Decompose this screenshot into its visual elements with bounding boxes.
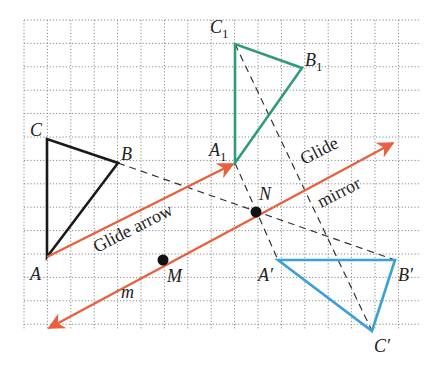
label-A: A <box>29 264 42 284</box>
label-Bprime: B′ <box>398 265 414 285</box>
label-Cprime: C′ <box>374 336 391 356</box>
point-N <box>251 207 262 218</box>
label-mirror: mirror <box>314 173 364 212</box>
label-glide: Glide <box>297 133 342 169</box>
label-m: m <box>121 282 134 302</box>
dotted-grid <box>24 20 421 330</box>
label-M: M <box>166 266 183 286</box>
label-B1: B1 <box>305 50 323 74</box>
label-C: C <box>30 120 43 140</box>
label-C1: C1 <box>210 17 229 41</box>
point-M <box>158 255 169 266</box>
triangle-A1B1C1 <box>235 44 302 163</box>
label-B: B <box>121 144 132 164</box>
label-N: N <box>258 184 272 204</box>
triangle-AprimeBprimeCprime <box>278 260 395 331</box>
label-Aprime: A′ <box>257 265 274 285</box>
glide-reflection-diagram: A B C A1 B1 C1 A′ B′ C′ M N m Glide arro… <box>0 0 436 378</box>
